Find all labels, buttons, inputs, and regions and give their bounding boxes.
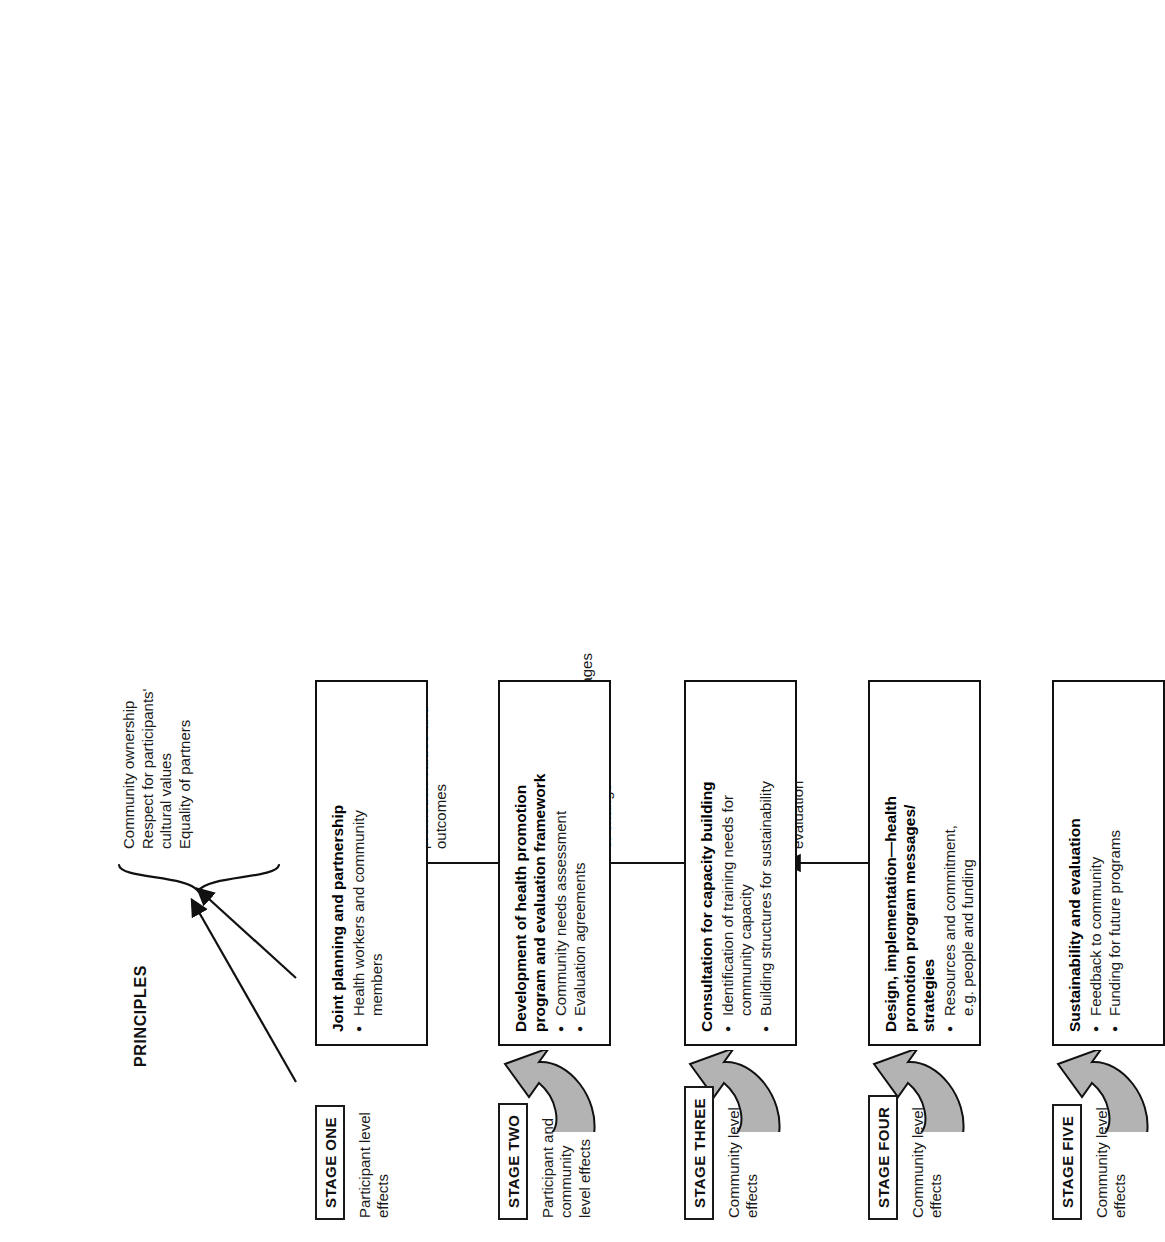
list-item: Community needs assessment — [552, 694, 570, 1032]
stage-effects-three: Community level effects — [725, 1068, 762, 1218]
list-item: Health workers and community members — [350, 694, 387, 1032]
stage-box-one-title: Joint planning and partnership — [329, 694, 348, 1032]
stage-tag-one[interactable]: STAGE ONE — [315, 1105, 345, 1220]
stage-box-three[interactable]: Consultation for capacity building Ident… — [684, 680, 797, 1046]
list-item: Evaluation agreements — [571, 694, 589, 1032]
stage-box-one-bullets: Health workers and community members — [350, 694, 387, 1032]
stage-effects-two: Participant and community level effects — [539, 1068, 594, 1218]
stage-box-two-bullets: Community needs assessment Evaluation ag… — [552, 694, 590, 1032]
stage-box-five-title: Sustainability and evaluation — [1066, 694, 1085, 1032]
stage-tag-four[interactable]: STAGE FOUR — [868, 1095, 898, 1220]
stage-tag-three[interactable]: STAGE THREE — [684, 1086, 714, 1220]
stage-effects-five: Community level effects — [1093, 1068, 1130, 1218]
arrow-stage-two-to-brace — [186, 872, 302, 984]
stage-box-three-bullets: Identification of training needs for com… — [719, 694, 775, 1032]
stage-box-three-title: Consultation for capacity building — [698, 694, 717, 1032]
principles-title: PRINCIPLES — [132, 965, 150, 1067]
stage-box-five-bullets: Feedback to communityFunding for future … — [1087, 694, 1125, 1032]
list-item: Resources and commitment, e.g. people an… — [941, 694, 978, 1032]
stage-box-four[interactable]: Design, implementation—health promotion … — [868, 680, 981, 1046]
stage-box-two[interactable]: Development of health promotion program … — [498, 680, 611, 1046]
list-item: Funding for future programs — [1106, 694, 1124, 1032]
stage-effects-four: Community level effects — [909, 1068, 946, 1218]
list-item: Feedback to community — [1087, 694, 1105, 1032]
stage-effects-one: Participant level effects — [356, 1068, 393, 1218]
brace-principles-text: Community ownership Respect for particip… — [120, 619, 194, 849]
stage-box-five[interactable]: Sustainability and evaluationFeedback to… — [1052, 680, 1165, 1046]
list-item: Building structures for sustainability — [757, 694, 775, 1032]
stage-box-two-title: Development of health promotion program … — [512, 694, 550, 1032]
stage-tag-two[interactable]: STAGE TWO — [498, 1103, 528, 1220]
list-item: Identification of training needs for com… — [719, 694, 756, 1032]
stage-box-one[interactable]: Joint planning and partnership Health wo… — [315, 680, 428, 1046]
stage-box-four-title: Design, implementation—health promotion … — [882, 694, 939, 1032]
stage-box-four-bullets: Resources and commitment, e.g. people an… — [941, 694, 978, 1032]
stage-tag-five[interactable]: STAGE FIVE — [1052, 1104, 1082, 1220]
